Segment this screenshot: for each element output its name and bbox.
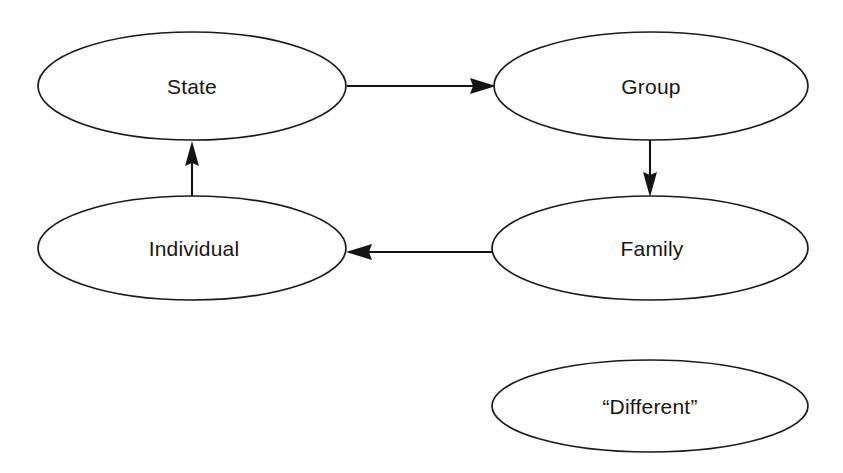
edge-individual-to-state[interactable] — [185, 141, 199, 197]
edge-individual-to-state-arrowhead — [185, 141, 199, 166]
node-family[interactable]: Family — [492, 196, 808, 300]
node-individual[interactable]: Individual — [38, 196, 346, 300]
edge-family-to-individual-arrowhead — [346, 244, 372, 260]
node-state[interactable]: State — [38, 32, 346, 140]
node-different-label: “Different” — [602, 395, 697, 418]
node-state-label: State — [167, 75, 217, 98]
diagram-svg: State Group Individual Family “Different… — [0, 0, 843, 473]
node-group-entity[interactable]: Group — [494, 32, 808, 140]
diagram-canvas: State Group Individual Family “Different… — [0, 0, 843, 473]
edge-group-to-family-arrowhead — [643, 172, 657, 197]
edge-state-to-group[interactable] — [347, 78, 496, 94]
node-group: State Group Individual Family “Different… — [38, 32, 808, 452]
edge-group-to-family[interactable] — [643, 140, 657, 197]
node-group-label: Group — [621, 75, 680, 98]
node-different[interactable]: “Different” — [492, 360, 808, 452]
edge-family-to-individual[interactable] — [346, 244, 492, 260]
node-family-label: Family — [620, 237, 683, 260]
node-individual-label: Individual — [149, 237, 240, 260]
edge-state-to-group-arrowhead — [470, 78, 496, 94]
